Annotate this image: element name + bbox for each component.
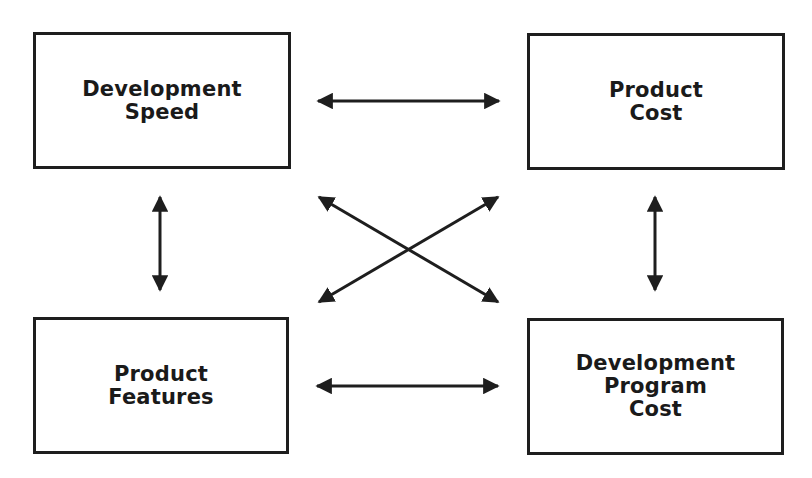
arrows-layer xyxy=(0,0,812,478)
